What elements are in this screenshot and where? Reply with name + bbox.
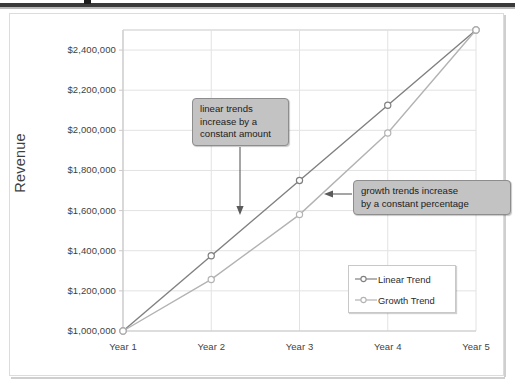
annotation-callout-linear: linear trends increase by a constant amo… (192, 98, 289, 146)
x-axis-tick-label: Year 2 (176, 341, 246, 352)
y-axis-tick-label: $1,200,000 (48, 285, 116, 296)
data-point-marker (208, 276, 214, 282)
y-axis-tick-label: $2,000,000 (48, 124, 116, 135)
data-point-marker (208, 253, 214, 259)
y-axis-tick-label: $1,400,000 (48, 245, 116, 256)
annotation-line: constant amount (200, 128, 281, 141)
y-axis-tick-label: $1,000,000 (48, 325, 116, 336)
x-axis-tick-label: Year 1 (88, 341, 158, 352)
data-point-marker (385, 130, 391, 136)
annotation-line: growth trends increase (361, 185, 503, 198)
data-point-marker (296, 177, 302, 183)
annotation-callout-growth: growth trends increase by a constant per… (353, 180, 511, 215)
y-axis-title: Revenue (12, 118, 28, 208)
x-axis-tick-label: Year 4 (353, 341, 423, 352)
x-axis-tick-label: Year 3 (265, 341, 335, 352)
annotation-line: increase by a (200, 116, 281, 129)
chart-annotation-arrows (236, 147, 352, 215)
data-point-marker (120, 328, 126, 334)
legend-marker-icon (355, 274, 377, 284)
chart-legend: Linear Trend Growth Trend (348, 265, 456, 313)
annotation-line: by a constant percentage (361, 198, 503, 211)
y-axis-tick-label: $1,600,000 (48, 205, 116, 216)
y-axis-tick-label: $2,400,000 (48, 44, 116, 55)
data-point-marker (473, 27, 479, 33)
y-axis-tick-label: $2,200,000 (48, 84, 116, 95)
legend-label: Linear Trend (378, 274, 431, 285)
y-axis-tick-label: $1,800,000 (48, 164, 116, 175)
legend-marker-icon (355, 295, 377, 305)
legend-item-linear-trend[interactable]: Linear Trend (355, 272, 431, 286)
x-axis-tick-label: Year 5 (441, 341, 511, 352)
data-point-marker (385, 102, 391, 108)
data-point-marker (296, 212, 302, 218)
annotation-line: linear trends (200, 103, 281, 116)
legend-item-growth-trend[interactable]: Growth Trend (355, 293, 435, 307)
legend-label: Growth Trend (378, 295, 435, 306)
